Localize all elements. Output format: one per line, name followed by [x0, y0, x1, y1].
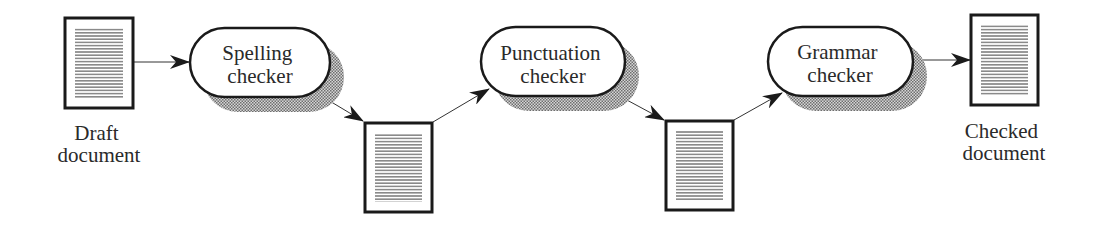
document-text-lines — [981, 25, 1028, 95]
process-grammar-checker: Grammar checker — [768, 27, 927, 111]
process-label: Grammar checker — [797, 40, 883, 87]
process-spelling-checker: Spelling checker — [190, 28, 344, 112]
edge-doc1-to-punctuation — [433, 89, 489, 122]
document-intermediate-2 — [666, 121, 733, 210]
document-text-lines — [75, 28, 123, 98]
document-text-lines — [375, 133, 422, 202]
document-intermediate-1 — [365, 123, 432, 212]
process-punctuation-checker: Punctuation checker — [481, 27, 639, 111]
document-text-lines — [676, 131, 723, 200]
edge-doc2-to-grammar — [734, 93, 782, 120]
process-label: Spelling checker — [222, 41, 297, 88]
document-label: Draft document — [58, 121, 141, 167]
pipeline-diagram: Draft document Checked document Spelling… — [0, 0, 1094, 228]
document-label: Checked document — [963, 119, 1046, 165]
document-draft: Draft document — [58, 18, 141, 167]
document-checked: Checked document — [963, 15, 1046, 165]
